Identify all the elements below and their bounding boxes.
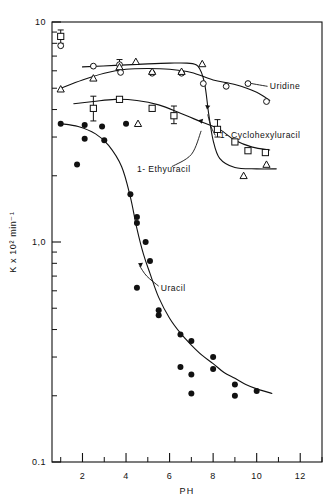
data-point-uracil bbox=[210, 354, 216, 360]
data-point-uracil bbox=[82, 136, 88, 142]
uracil-arrowhead bbox=[138, 263, 143, 268]
data-point-1-cyclohexyluracil bbox=[57, 86, 64, 92]
data-point-1-ethyuracil bbox=[171, 113, 177, 119]
data-point-1-ethyuracil bbox=[116, 96, 122, 102]
y-tick-label: 1,0 bbox=[32, 237, 46, 247]
ph-rate-profile-chart: 0.11,01024681012PHK x 10² min⁻¹Uridine1-… bbox=[0, 0, 335, 504]
y-axis-title: K x 10² min⁻¹ bbox=[8, 211, 18, 272]
data-point-uracil bbox=[188, 338, 194, 344]
data-point-uracil bbox=[101, 137, 107, 143]
ethyuracil-leader bbox=[172, 131, 201, 167]
data-point-uridine bbox=[223, 83, 229, 89]
x-tick-label: 8 bbox=[210, 471, 216, 481]
data-point-uracil bbox=[123, 121, 129, 127]
data-point-uracil bbox=[134, 220, 140, 226]
data-point-uracil bbox=[74, 162, 80, 168]
y-tick-label: 10 bbox=[35, 17, 46, 27]
data-point-uracil bbox=[177, 331, 183, 337]
y-tick-label: 0.1 bbox=[32, 457, 46, 467]
x-tick-label: 6 bbox=[167, 471, 173, 481]
x-tick-label: 4 bbox=[123, 471, 129, 481]
data-point-uracil bbox=[58, 121, 64, 127]
annotation-1-cyclohexyluracil: 1- Cyclohexyluracil bbox=[220, 130, 301, 140]
data-point-1-cyclohexyluracil bbox=[263, 161, 270, 167]
data-point-1-cyclohexyluracil bbox=[134, 120, 141, 126]
annotation-1-ethyuracil: 1- Ethyuracil bbox=[137, 164, 191, 174]
data-point-uracil bbox=[156, 312, 162, 318]
uracil-leader bbox=[140, 266, 159, 286]
data-point-uracil bbox=[82, 122, 88, 128]
data-point-uracil bbox=[134, 285, 140, 291]
data-point-uracil bbox=[254, 388, 260, 394]
data-point-1-ethyuracil bbox=[149, 105, 155, 111]
uridine-curve bbox=[61, 68, 270, 100]
data-point-uridine bbox=[264, 99, 270, 105]
data-point-uridine bbox=[58, 43, 64, 49]
data-point-1-ethyuracil bbox=[90, 105, 96, 111]
x-tick-label: 2 bbox=[80, 471, 86, 481]
data-point-uridine bbox=[118, 70, 124, 76]
data-point-uracil bbox=[188, 371, 194, 377]
data-point-1-cyclohexyluracil bbox=[199, 60, 206, 66]
x-tick-label: 10 bbox=[251, 471, 262, 481]
data-point-1-ethyuracil bbox=[245, 148, 251, 154]
data-point-uracil bbox=[232, 393, 238, 399]
annotation-uridine: Uridine bbox=[270, 81, 300, 91]
data-point-uracil bbox=[177, 364, 183, 370]
data-point-uracil bbox=[127, 191, 133, 197]
data-point-uridine bbox=[90, 63, 96, 69]
data-point-1-cyclohexyluracil bbox=[132, 58, 139, 64]
x-axis-title: PH bbox=[180, 486, 195, 496]
x-tick-label: 12 bbox=[295, 471, 306, 481]
data-point-uracil bbox=[232, 382, 238, 388]
data-point-uracil bbox=[143, 239, 149, 245]
figure-panel: 0.11,01024681012PHK x 10² min⁻¹Uridine1-… bbox=[0, 0, 335, 504]
data-point-1-ethyuracil bbox=[262, 149, 268, 155]
data-point-uracil bbox=[134, 214, 140, 220]
annotation-uracil: Uracil bbox=[161, 283, 186, 293]
data-point-uridine bbox=[200, 81, 206, 87]
data-point-uracil bbox=[147, 258, 153, 264]
data-point-1-cyclohexyluracil bbox=[240, 172, 247, 178]
data-point-uracil bbox=[210, 366, 216, 372]
data-point-uracil bbox=[99, 123, 105, 129]
data-point-uracil bbox=[188, 390, 194, 396]
data-point-uridine bbox=[245, 81, 251, 87]
data-point-1-ethyuracil bbox=[58, 33, 64, 39]
